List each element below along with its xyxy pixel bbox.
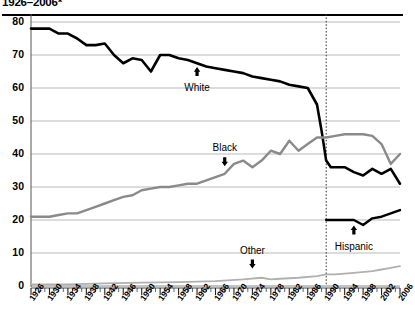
annotation-arrow-white bbox=[194, 67, 200, 76]
y-tick-label-40: 40 bbox=[0, 147, 24, 159]
y-tick-label-80: 80 bbox=[0, 15, 24, 27]
series-line-other bbox=[31, 266, 400, 284]
annotation-arrow-other bbox=[249, 260, 255, 269]
y-tick-label-30: 30 bbox=[0, 180, 24, 192]
y-tick-label-60: 60 bbox=[0, 81, 24, 93]
annotation-label-white: White bbox=[157, 82, 237, 93]
series-line-white bbox=[31, 29, 400, 184]
y-tick-label-70: 70 bbox=[0, 48, 24, 60]
y-tick-label-20: 20 bbox=[0, 213, 24, 225]
series-line-hispanic bbox=[326, 210, 400, 225]
annotation-arrow-hispanic bbox=[351, 226, 357, 235]
y-tick-label-50: 50 bbox=[0, 114, 24, 126]
annotation-label-hispanic: Hispanic bbox=[314, 241, 394, 252]
annotation-label-black: Black bbox=[185, 142, 265, 153]
annotation-arrow-black bbox=[222, 157, 228, 166]
y-tick-label-0: 0 bbox=[0, 279, 24, 291]
annotation-label-other: Other bbox=[212, 245, 292, 256]
y-tick-label-10: 10 bbox=[0, 246, 24, 258]
